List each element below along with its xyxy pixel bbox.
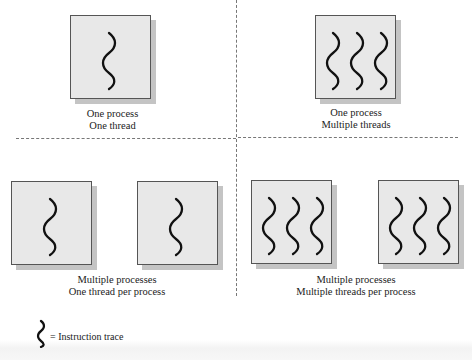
- instruction-trace-icon: [71, 16, 150, 98]
- process-box: [137, 181, 218, 265]
- caption-line1: Multiple processes: [57, 274, 177, 286]
- process-box: [11, 181, 92, 265]
- caption-one-process-one-thread: One process One thread: [70, 108, 155, 132]
- instruction-trace-icon: [12, 182, 91, 264]
- caption-line2: Multiple threads: [306, 119, 406, 131]
- instruction-trace-icon: [252, 181, 331, 263]
- page-bottom-shading: [0, 340, 472, 360]
- quadrant-divider-vertical: [236, 0, 237, 296]
- caption-line2: One thread: [70, 120, 155, 132]
- instruction-trace-icon: [138, 182, 217, 264]
- process-box: [251, 180, 332, 264]
- process-box: [70, 15, 151, 99]
- process-box: [378, 180, 459, 264]
- caption-line1: One process: [306, 107, 406, 119]
- quadrant-divider-horizontal-left: [16, 138, 236, 139]
- caption-multiple-processes-multiple-threads: Multiple processes Multiple threads per …: [296, 274, 416, 298]
- caption-line2: One thread per process: [57, 286, 177, 298]
- caption-line2: Multiple threads per process: [296, 286, 416, 298]
- quadrant-divider-horizontal-right: [238, 137, 458, 138]
- legend-label: = Instruction trace: [50, 331, 123, 342]
- instruction-trace-icon: [316, 16, 395, 98]
- caption-multiple-processes-one-thread: Multiple processes One thread per proces…: [57, 274, 177, 298]
- caption-one-process-multiple-threads: One process Multiple threads: [306, 107, 406, 131]
- instruction-trace-icon: [36, 318, 48, 348]
- caption-line1: One process: [70, 108, 155, 120]
- process-box: [315, 15, 396, 99]
- caption-line1: Multiple processes: [296, 274, 416, 286]
- instruction-trace-icon: [379, 181, 458, 263]
